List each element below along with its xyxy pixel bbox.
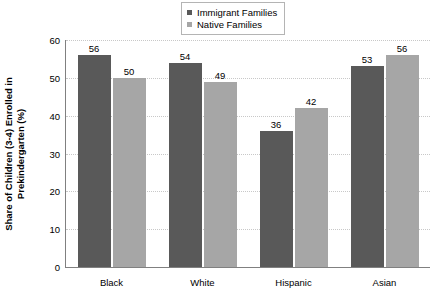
y-axis-tick-label: 10: [49, 224, 60, 235]
y-axis-tick-label: 40: [49, 110, 60, 121]
y-axis-title: Share of Children (3-4) Enrolled in Prek…: [3, 77, 27, 231]
bar-asian-native-families: 56: [386, 55, 419, 267]
x-axis-category-label: White: [190, 277, 214, 288]
bar-pair: 5449: [169, 40, 237, 267]
bar-pair: 3642: [260, 40, 328, 267]
bar-value-label: 42: [306, 96, 317, 107]
bar-hispanic-native-families: 42: [295, 108, 328, 267]
bar-white-native-families: 49: [204, 82, 237, 267]
bar-black-immigrant-families: 56: [78, 55, 111, 267]
bar-chart: Immigrant Families Native Families Share…: [0, 0, 434, 293]
chart-legend: Immigrant Families Native Families: [181, 2, 285, 35]
bar-white-immigrant-families: 54: [169, 63, 202, 267]
legend-swatch-immigrant-families: [187, 10, 192, 15]
legend-swatch-native-families: [187, 22, 192, 27]
x-axis-category-label: Black: [100, 277, 123, 288]
bar-value-label: 53: [362, 54, 373, 65]
bar-group: 3642Hispanic: [248, 40, 339, 267]
bar-black-native-families: 50: [113, 78, 146, 267]
legend-label-native-families: Native Families: [197, 19, 262, 30]
bar-value-label: 36: [271, 119, 282, 130]
y-axis-tick-label: 50: [49, 72, 60, 83]
legend-item-immigrant-families: Immigrant Families: [187, 7, 277, 18]
y-axis-tick-label: 20: [49, 186, 60, 197]
bar-group: 5650Black: [66, 40, 157, 267]
bar-groups: 5650Black5449White3642Hispanic5356Asian: [66, 40, 430, 267]
bar-pair: 5356: [351, 40, 419, 267]
bar-value-label: 56: [89, 43, 100, 54]
x-axis-category-label: Hispanic: [275, 277, 311, 288]
bar-value-label: 56: [397, 43, 408, 54]
legend-label-immigrant-families: Immigrant Families: [197, 7, 277, 18]
plot-area: 0102030405060 5650Black5449White3642Hisp…: [65, 40, 430, 267]
y-axis-tick-label: 30: [49, 148, 60, 159]
bar-asian-immigrant-families: 53: [351, 66, 384, 267]
y-axis-title-wrap: Share of Children (3-4) Enrolled in Prek…: [0, 40, 30, 268]
bar-group: 5449White: [157, 40, 248, 267]
bar-group: 5356Asian: [339, 40, 430, 267]
x-axis-line: [65, 267, 430, 268]
x-axis-category-label: Asian: [373, 277, 397, 288]
legend-item-native-families: Native Families: [187, 19, 277, 30]
bar-value-label: 54: [180, 51, 191, 62]
y-axis-title-line-1: Share of Children (3-4) Enrolled in: [3, 77, 14, 231]
bar-value-label: 50: [124, 66, 135, 77]
y-axis-tick-label: 0: [55, 262, 60, 273]
bar-pair: 5650: [78, 40, 146, 267]
bar-value-label: 49: [215, 70, 226, 81]
bar-hispanic-immigrant-families: 36: [260, 131, 293, 267]
y-axis-title-line-2: Prekindergarten (%): [15, 109, 26, 199]
y-axis-tick-label: 60: [49, 35, 60, 46]
